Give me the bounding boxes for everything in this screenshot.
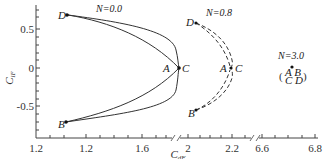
chart: 0.5 0 -0.5 1.2 1.2 1.6 2 2.2 6.6 6.8 ClF…: [0, 0, 325, 159]
svg-text:(: (: [279, 70, 283, 83]
n0-upper-inner: [68, 15, 179, 68]
n3-group-label: ( A B C D ): [279, 66, 307, 86]
svg-text:B: B: [58, 118, 65, 130]
svg-text:1.2: 1.2: [79, 142, 93, 154]
n0-point-B: [64, 120, 68, 124]
svg-text:0: 0: [29, 62, 35, 74]
svg-text:D: D: [185, 16, 194, 28]
svg-text:1.2: 1.2: [29, 142, 43, 154]
svg-text:2.2: 2.2: [225, 142, 239, 154]
svg-text:6.8: 6.8: [308, 142, 322, 154]
svg-text:0.5: 0.5: [20, 23, 34, 35]
svg-text:A: A: [162, 62, 170, 74]
svg-text:CdF: CdF: [170, 148, 186, 159]
n0-lower-inner: [66, 68, 179, 122]
axis-break-1: [171, 135, 181, 141]
svg-text:D: D: [57, 9, 66, 21]
n0-point-AC: [177, 66, 181, 70]
x-ticks: [50, 134, 315, 138]
axes: [36, 5, 318, 138]
label-n3: N=3.0: [277, 50, 304, 61]
series-n08: [196, 23, 232, 110]
label-n0: N=0.0: [95, 3, 122, 14]
n0-upper-outer: [68, 15, 179, 68]
x-axis-title: CdF: [170, 148, 186, 159]
svg-text:C: C: [182, 62, 190, 74]
svg-text:2: 2: [185, 142, 191, 154]
svg-text:): ): [303, 70, 307, 83]
svg-text:6.6: 6.6: [255, 142, 269, 154]
n0-lower-outer: [66, 68, 179, 122]
n08-point-B: [194, 108, 197, 111]
y-ticks: [36, 10, 40, 130]
svg-text:1.6: 1.6: [135, 142, 149, 154]
y-tick-labels: 0.5 0 -0.5: [17, 23, 35, 112]
axis-break-2: [250, 135, 260, 141]
n08-point-AC: [229, 66, 232, 69]
svg-text:A: A: [219, 62, 227, 74]
svg-text:B: B: [188, 107, 195, 119]
svg-text:C: C: [235, 62, 243, 74]
svg-text:ClF: ClF: [3, 71, 17, 85]
svg-text:-0.5: -0.5: [17, 100, 35, 112]
label-n08: N=0.8: [205, 7, 232, 18]
y-axis-title: ClF: [3, 71, 17, 85]
n08-point-D: [194, 21, 197, 24]
svg-text:C D: C D: [285, 74, 303, 86]
